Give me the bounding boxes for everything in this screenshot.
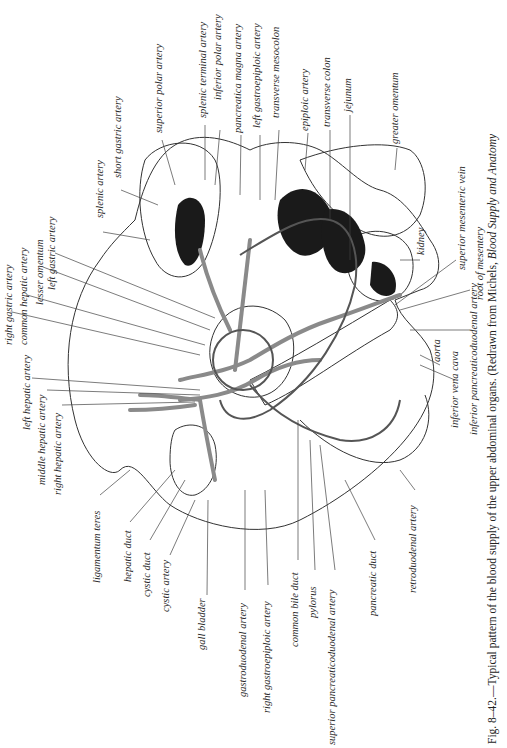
label-inferior-vena-cava: inferior vena cava (450, 351, 461, 428)
label-left-hepatic-artery: left hepatic artery (22, 355, 33, 430)
label-common-hepatic-artery: common hepatic artery (19, 248, 30, 345)
label-superior-mesenteric-vein: superior mesenteric vein (457, 166, 468, 270)
label-retroduodenal-artery: retroduodenal artery (408, 505, 419, 593)
label-cystic-duct: cystic duct (142, 552, 153, 597)
label-right-gastroepiploic-artery: right gastroepiploic artery (262, 601, 273, 713)
label-splenic-artery: splenic artery (95, 160, 106, 218)
label-cystic-artery: cystic artery (161, 560, 172, 612)
label-ligamentum-teres: ligamentum teres (92, 511, 103, 583)
label-left-gastric-artery: left gastric artery (47, 217, 58, 291)
label-greater-omentum: greater omentum (390, 72, 401, 144)
anatomical-figure: right gastric artery common hepatic arte… (0, 0, 507, 748)
label-common-bile-duct: common bile duct (290, 572, 301, 647)
label-transverse-mesocolon: transverse mesocolon (271, 27, 282, 118)
label-left-gastroepiploic-artery: left gastroepiploic artery (252, 23, 263, 128)
caption-text: —Typical pattern of the blood supply of … (486, 259, 498, 697)
figure-number: Fig. 8–42. (486, 697, 498, 744)
label-pylorus: pylorus (308, 587, 319, 619)
label-transverse-colon: transverse colon (322, 57, 333, 127)
label-gastroduodenal-artery: gastroduodenal artery (238, 603, 249, 697)
label-short-gastric-artery: short gastric artery (113, 96, 124, 178)
label-right-hepatic-artery: right hepatic artery (53, 413, 64, 495)
label-aorta: aorta (432, 339, 443, 362)
label-pancreatica-magna-artery: pancreatica magna artery (233, 24, 244, 133)
figure-caption: Fig. 8–42.—Typical pattern of the blood … (486, 134, 498, 744)
label-jejunum: jejunum (343, 78, 354, 112)
label-pancreatic-duct: pancreatic duct (368, 551, 379, 616)
label-hepatic-duct: hepatic duct (123, 530, 134, 582)
label-right-gastric-artery: right gastric artery (4, 265, 15, 346)
label-gall-bladder: gall bladder (197, 598, 208, 650)
label-inferior-pancreaticoduodenal-artery: inferior pancreaticoduodenal artery (469, 283, 480, 435)
label-inferior-polar-artery: inferior polar artery (213, 14, 224, 100)
label-middle-hepatic-artery: middle hepatic artery (37, 395, 48, 485)
caption-book-title: Blood Supply and Anatomy (486, 134, 498, 259)
label-splenic-terminal-artery: splenic terminal artery (198, 22, 209, 118)
label-lesser-omentum: lesser omentum (35, 239, 46, 305)
label-superior-polar-artery: superior polar artery (154, 44, 165, 133)
label-kidney: kidney (416, 228, 427, 255)
label-epiploic-artery: epiploic artery (300, 69, 311, 131)
label-superior-pancreaticoduodenal-artery: superior pancreaticoduodenal artery (327, 590, 338, 745)
